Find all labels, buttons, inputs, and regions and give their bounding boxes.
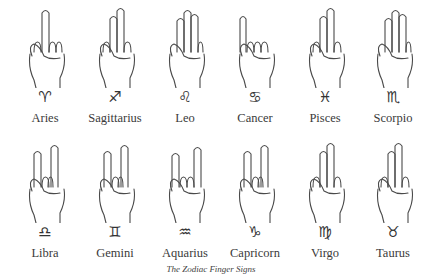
- capricorn-symbol-icon: ♑︎: [220, 223, 290, 241]
- hand-gesture-icon: [90, 6, 140, 88]
- scorpio-symbol-icon: ♏︎: [358, 88, 422, 106]
- libra-symbol-icon: ♎︎: [10, 223, 80, 241]
- figure-caption: The Zodiac Finger Signs: [0, 264, 422, 274]
- hand-gesture-icon: [160, 141, 210, 223]
- leo-symbol-icon: ♌︎: [150, 88, 220, 106]
- hand-gesture-icon: [230, 6, 280, 88]
- sagittarius-symbol-icon: ♐︎: [80, 88, 150, 106]
- hand-gesture-icon: [368, 6, 418, 88]
- hand-gesture-icon: [300, 141, 350, 223]
- aquarius-symbol-icon: ♒︎: [150, 223, 220, 241]
- pisces-symbol-icon: ♓︎: [290, 88, 360, 106]
- aries-symbol-icon: ♈︎: [10, 88, 80, 106]
- zodiac-cell-taurus: ♉︎Taurus: [358, 135, 422, 270]
- row-2: ♎︎Libra♊︎Gemini♒︎Aquarius♑︎Capricorn♍︎Vi…: [0, 135, 422, 270]
- hand-gesture-icon: [20, 141, 70, 223]
- zodiac-cell-scorpio: ♏︎Scorpio: [358, 0, 422, 135]
- row-1: ♈︎Aries♐︎Sagittarius♌︎Leo♋︎Cancer♓︎Pisce…: [0, 0, 422, 135]
- zodiac-label: Taurus: [348, 245, 422, 261]
- hand-gesture-icon: [300, 6, 350, 88]
- cancer-symbol-icon: ♋︎: [220, 88, 290, 106]
- hand-gesture-icon: [368, 141, 418, 223]
- hand-gesture-icon: [160, 6, 210, 88]
- hand-gesture-icon: [20, 6, 70, 88]
- virgo-symbol-icon: ♍︎: [290, 223, 360, 241]
- hand-gesture-icon: [90, 141, 140, 223]
- gemini-symbol-icon: ♊︎: [80, 223, 150, 241]
- hand-gesture-icon: [230, 141, 280, 223]
- taurus-symbol-icon: ♉︎: [358, 223, 422, 241]
- zodiac-label: Scorpio: [348, 110, 422, 126]
